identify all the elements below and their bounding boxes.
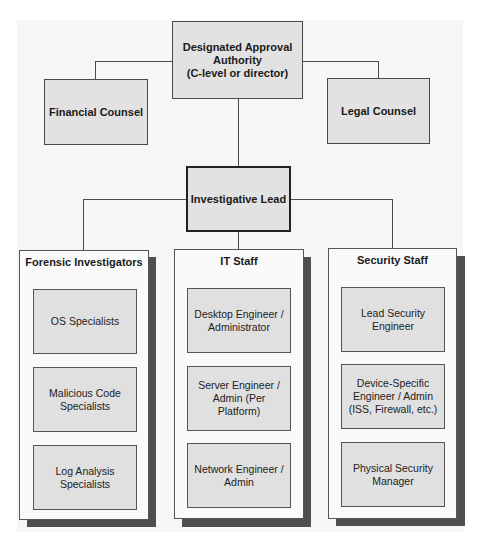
member-box: OS Specialists	[33, 289, 137, 354]
legal-counsel-label: Legal Counsel	[341, 105, 416, 118]
security-staff-panel: Security Staff Lead Security Engineer De…	[328, 248, 457, 519]
member-box: Desktop Engineer / Administrator	[187, 288, 291, 353]
financial-counsel-label: Financial Counsel	[49, 106, 143, 119]
connector-legal	[378, 61, 379, 78]
approval-authority-line-1: Designated Approval	[183, 41, 293, 54]
member-box: Device-Specific Engineer / Admin (ISS, F…	[341, 364, 445, 429]
connector-security	[392, 199, 393, 249]
investigative-lead-box: Investigative Lead	[186, 166, 291, 232]
approval-authority-line-2: Authority	[213, 54, 262, 67]
connector-it	[238, 231, 239, 250]
approval-authority-line-3: (C-level or director)	[187, 67, 288, 80]
panel-title: IT Staff	[175, 255, 303, 267]
legal-counsel-box: Legal Counsel	[327, 78, 430, 144]
it-staff-panel: IT Staff Desktop Engineer / Administrato…	[174, 249, 304, 519]
panel-title: Security Staff	[329, 254, 456, 266]
connector-financial	[95, 61, 96, 79]
connector-authority-to-lead	[238, 98, 239, 166]
member-box: Log Analysis Specialists	[33, 445, 137, 510]
panel-title: Forensic Investigators	[20, 256, 148, 268]
forensic-investigators-panel: Forensic Investigators OS Specialists Ma…	[19, 250, 149, 520]
member-box: Server Engineer / Admin (Per Platform)	[187, 366, 291, 431]
connector-forensic	[83, 199, 84, 250]
financial-counsel-box: Financial Counsel	[44, 79, 148, 145]
member-box: Malicious Code Specialists	[33, 367, 137, 432]
investigative-lead-label: Investigative Lead	[191, 193, 286, 206]
member-box: Network Engineer / Admin	[187, 443, 291, 508]
member-box: Lead Security Engineer	[341, 287, 445, 352]
approval-authority-box: Designated Approval Authority (C-level o…	[172, 21, 303, 99]
member-box: Physical Security Manager	[341, 442, 445, 507]
